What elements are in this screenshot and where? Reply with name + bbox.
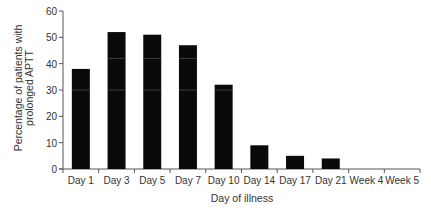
- bar: [286, 156, 304, 169]
- x-tick-label: Week 4: [350, 175, 384, 186]
- y-tick-label: 30: [46, 85, 58, 96]
- x-tick-label: Day 14: [244, 175, 276, 186]
- y-tick-label: 40: [46, 59, 58, 70]
- bar: [72, 69, 90, 169]
- x-axis: Day 1Day 3Day 5Day 7Day 10Day 14Day 17Da…: [59, 169, 420, 186]
- bar: [250, 145, 268, 169]
- bar: [215, 85, 233, 169]
- y-axis: 0102030405060: [46, 6, 63, 175]
- bar: [143, 35, 161, 169]
- y-tick-label: 50: [46, 32, 58, 43]
- y-axis-title-line: prolonged APTT: [23, 49, 35, 125]
- x-tick-label: Day 1: [68, 175, 95, 186]
- x-tick-label: Day 3: [103, 175, 130, 186]
- y-tick-label: 10: [46, 138, 58, 149]
- y-tick-label: 20: [46, 111, 58, 122]
- x-tick-label: Day 5: [139, 175, 166, 186]
- x-tick-label: Day 7: [175, 175, 202, 186]
- bars: [72, 32, 340, 169]
- bar: [108, 32, 126, 169]
- bar: [322, 158, 340, 169]
- x-axis-title: Day of illness: [211, 192, 273, 204]
- y-tick-label: 60: [46, 6, 58, 17]
- x-tick-label: Day 17: [279, 175, 311, 186]
- x-tick-label: Week 5: [385, 175, 419, 186]
- y-axis-title: Percentage of patients withprolonged APT…: [12, 25, 35, 152]
- bar-chart: Percentage of patients withprolonged APT…: [0, 0, 431, 215]
- x-tick-label: Day 21: [315, 175, 347, 186]
- bar: [179, 45, 197, 169]
- x-tick-label: Day 10: [208, 175, 240, 186]
- y-tick-label: 0: [51, 164, 57, 175]
